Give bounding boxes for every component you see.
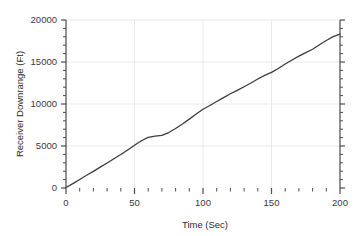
y-tick-label: 20000: [31, 14, 57, 25]
y-tick-label: 15000: [31, 56, 57, 67]
y-axis: [61, 20, 66, 188]
x-tick-label: 0: [63, 197, 68, 208]
y-tick-label: 0: [52, 182, 57, 193]
x-tick-labels: 050100150200: [63, 197, 348, 208]
y-tick-labels: 05000100001500020000: [31, 14, 57, 193]
x-tick-label: 150: [264, 197, 280, 208]
x-axis: [66, 188, 340, 194]
x-tick-label: 200: [332, 197, 348, 208]
y-axis-title: Receiver Downrange (Ft): [14, 51, 25, 157]
x-axis-title: Time (Sec): [182, 219, 228, 230]
y-tick-label: 5000: [36, 140, 57, 151]
x-tick-label: 100: [195, 197, 211, 208]
y-tick-label: 10000: [31, 98, 57, 109]
chart-container: 05000100001500020000 050100150200 Time (…: [0, 0, 358, 236]
right-axis: [340, 20, 345, 188]
x-tick-label: 50: [129, 197, 140, 208]
line-chart: 05000100001500020000 050100150200 Time (…: [0, 0, 358, 236]
